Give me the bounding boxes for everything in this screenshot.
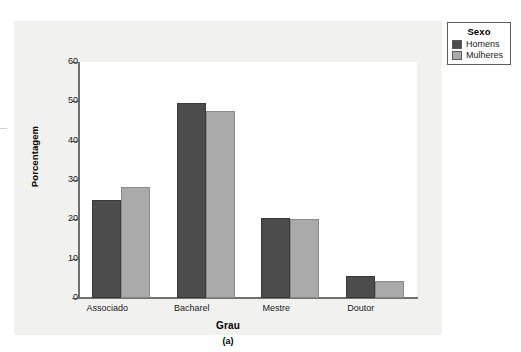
bar-bacharel-mulheres	[206, 111, 235, 298]
y-axis-title: Porcentagem	[29, 107, 40, 207]
x-tick-label-mestre: Mestre	[231, 303, 321, 313]
legend-title: Sexo	[452, 26, 506, 37]
x-axis-title: Grau	[14, 320, 442, 331]
figure-panel: 0102030405060 Porcentagem AssociadoBacha…	[14, 21, 442, 335]
bar-doutor-mulheres	[375, 281, 404, 298]
crop-mark	[0, 128, 7, 129]
y-tick-label: 10	[26, 254, 78, 263]
y-tick-label: 50	[26, 96, 78, 105]
legend-entry-mulheres: Mulheres	[452, 50, 506, 60]
legend-label: Homens	[466, 39, 500, 49]
x-tick-label-doutor: Doutor	[316, 303, 406, 313]
x-tick-label-associado: Associado	[62, 303, 152, 313]
x-tick-label-bacharel: Bacharel	[147, 303, 237, 313]
legend-entries: HomensMulheres	[452, 39, 506, 60]
y-tick-label: 20	[26, 214, 78, 223]
legend-swatch-icon	[452, 51, 462, 60]
bar-associado-homens	[92, 200, 121, 298]
bar-mestre-mulheres	[290, 219, 319, 298]
y-tick-label: 0	[26, 293, 78, 302]
legend: Sexo HomensMulheres	[447, 22, 511, 65]
legend-label: Mulheres	[466, 50, 503, 60]
bar-bacharel-homens	[177, 103, 206, 298]
bar-doutor-homens	[346, 276, 375, 298]
y-tick-label: 60	[26, 57, 78, 66]
bars-layer	[79, 62, 417, 298]
bar-mestre-homens	[261, 218, 290, 298]
figure-container: 0102030405060 Porcentagem AssociadoBacha…	[0, 0, 521, 352]
legend-swatch-icon	[452, 40, 462, 49]
legend-entry-homens: Homens	[452, 39, 506, 49]
figure-caption: (a)	[14, 336, 442, 346]
bar-associado-mulheres	[121, 187, 150, 298]
